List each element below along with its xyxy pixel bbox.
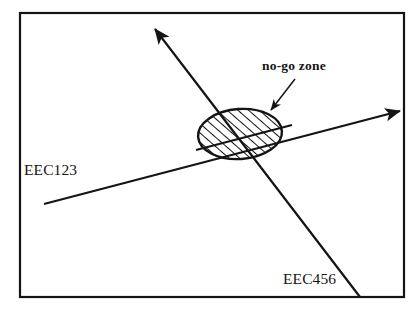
- no-go-zone-shape: [196, 106, 283, 162]
- route-label-eec123: EEC123: [24, 161, 77, 178]
- airway-diagram: EEC123 EEC456 no-go zone: [0, 0, 420, 316]
- route-line-eec456: [155, 29, 360, 297]
- zone-callout-leader: [271, 79, 295, 110]
- diagram-canvas: EEC123 EEC456 no-go zone: [0, 0, 420, 316]
- route-label-eec456: EEC456: [283, 270, 336, 287]
- zone-label: no-go zone: [262, 58, 326, 73]
